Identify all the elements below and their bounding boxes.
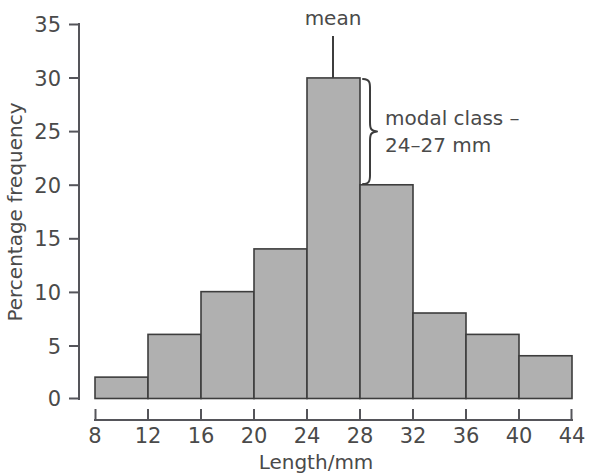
y-tick-label-0: 0 — [48, 387, 61, 411]
y-tick-label-15: 15 — [34, 227, 61, 251]
x-axis-title: Length/mm — [259, 450, 374, 474]
x-tick-label-12: 12 — [135, 424, 162, 448]
bar-32-36 — [413, 313, 466, 398]
y-tick-label-5: 5 — [48, 335, 61, 359]
modal-class-annotation: modal class – 24–27 mm — [363, 79, 520, 184]
x-tick-label-36: 36 — [453, 424, 480, 448]
modal-class-brace-icon — [363, 79, 377, 184]
x-tick-label-16: 16 — [188, 424, 215, 448]
bar-40-44 — [519, 356, 572, 399]
x-tick-label-44: 44 — [559, 424, 586, 448]
x-tick-label-24: 24 — [294, 424, 321, 448]
y-tick-label-25: 25 — [34, 120, 61, 144]
x-tick-label-32: 32 — [400, 424, 427, 448]
x-tick-label-8: 8 — [88, 424, 101, 448]
modal-class-label-line2: 24–27 mm — [385, 133, 491, 157]
bar-24-28 — [307, 78, 360, 399]
bar-36-40 — [466, 334, 519, 398]
bar-16-20 — [201, 292, 254, 399]
bar-28-32 — [360, 185, 413, 399]
x-axis-group: 8 12 16 20 24 28 32 36 40 44 Length/mm — [88, 410, 585, 474]
chart-canvas: 35 30 25 20 15 10 5 0 Percentage frequen… — [0, 0, 606, 475]
bar-12-16 — [148, 334, 201, 398]
y-tick-label-35: 35 — [34, 13, 61, 37]
mean-label: mean — [305, 6, 362, 30]
bar-8-12 — [95, 377, 148, 398]
x-tick-label-20: 20 — [241, 424, 268, 448]
y-axis-group: 35 30 25 20 15 10 5 0 Percentage frequen… — [3, 13, 79, 411]
modal-class-label-line1: modal class – — [385, 106, 520, 130]
y-tick-label-30: 30 — [34, 67, 61, 91]
bar-20-24 — [254, 249, 307, 399]
y-tick-label-10: 10 — [34, 281, 61, 305]
y-tick-label-20: 20 — [34, 174, 61, 198]
histogram-chart: 35 30 25 20 15 10 5 0 Percentage frequen… — [0, 0, 606, 475]
y-axis-title: Percentage frequency — [3, 102, 27, 321]
x-tick-label-28: 28 — [347, 424, 374, 448]
x-tick-label-40: 40 — [506, 424, 533, 448]
mean-annotation: mean — [305, 6, 362, 78]
